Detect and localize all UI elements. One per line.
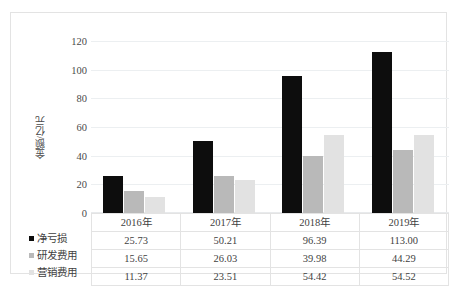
bar-group-2018年 (270, 41, 360, 213)
y-tick-120: 120 (55, 36, 87, 47)
y-tick-60: 60 (55, 122, 87, 133)
data-table: 2016年2017年2018年2019年25.7350.2196.39113.0… (91, 213, 449, 286)
legend-item-研发费用[interactable]: 研发费用 (29, 247, 91, 264)
table-cell-研发费用-2018年: 39.98 (270, 250, 359, 268)
bar-净亏损-2016年[interactable] (103, 176, 123, 213)
table-cell-净亏损-2019年: 113.00 (359, 232, 448, 250)
bar-营销费用-2017年[interactable] (235, 180, 255, 214)
table-header-row: 2016年2017年2018年2019年 (92, 214, 449, 232)
table-cell-研发费用-2016年: 15.65 (92, 250, 181, 268)
legend-item-label: 研发费用 (37, 247, 77, 264)
legend: 净亏损研发费用营销费用 (29, 230, 91, 281)
legend-swatch-icon-营销费用 (29, 270, 34, 275)
chart-frame: 金额/亿元 120 100 80 60 40 20 0 净亏损研发费用营销费用 … (10, 12, 447, 274)
legend-item-label: 净亏损 (37, 230, 67, 247)
legend-item-营销费用[interactable]: 营销费用 (29, 264, 91, 281)
bars-layer (91, 41, 449, 213)
y-tick-0: 0 (55, 208, 87, 219)
bar-研发费用-2016年[interactable] (124, 191, 144, 213)
bar-净亏损-2017年[interactable] (193, 141, 213, 213)
bar-group-2019年 (360, 41, 450, 213)
bar-净亏损-2018年[interactable] (282, 76, 302, 213)
bar-研发费用-2017年[interactable] (214, 176, 234, 213)
bar-group-2017年 (181, 41, 271, 213)
table-header-2016年: 2016年 (92, 214, 181, 232)
y-axis-title: 金额/亿元 (35, 83, 49, 193)
data-table-body: 2016年2017年2018年2019年25.7350.2196.39113.0… (92, 214, 449, 286)
plot-area (91, 41, 449, 213)
y-tick-40: 40 (55, 150, 87, 161)
bar-营销费用-2016年[interactable] (145, 197, 165, 213)
bar-研发费用-2018年[interactable] (303, 156, 323, 213)
table-cell-营销费用-2016年: 11.37 (92, 268, 181, 286)
table-row: 25.7350.2196.39113.00 (92, 232, 449, 250)
bar-营销费用-2018年[interactable] (324, 135, 344, 213)
table-header-2018年: 2018年 (270, 214, 359, 232)
legend-swatch-icon-净亏损 (29, 236, 34, 241)
bar-group-2016年 (91, 41, 181, 213)
table-cell-研发费用-2019年: 44.29 (359, 250, 448, 268)
legend-swatch-icon-研发费用 (29, 253, 34, 258)
legend-item-label: 营销费用 (37, 264, 77, 281)
table-cell-净亏损-2017年: 50.21 (181, 232, 270, 250)
legend-item-净亏损[interactable]: 净亏损 (29, 230, 91, 247)
table-cell-营销费用-2018年: 54.42 (270, 268, 359, 286)
table-cell-净亏损-2018年: 96.39 (270, 232, 359, 250)
bar-营销费用-2019年[interactable] (414, 135, 434, 213)
bar-净亏损-2019年[interactable] (372, 52, 392, 213)
table-row: 15.6526.0339.9844.29 (92, 250, 449, 268)
table-cell-营销费用-2019年: 54.52 (359, 268, 448, 286)
table-cell-营销费用-2017年: 23.51 (181, 268, 270, 286)
table-row: 11.3723.5154.4254.52 (92, 268, 449, 286)
y-tick-80: 80 (55, 93, 87, 104)
table-cell-净亏损-2016年: 25.73 (92, 232, 181, 250)
table-header-2017年: 2017年 (181, 214, 270, 232)
table-cell-研发费用-2017年: 26.03 (181, 250, 270, 268)
bar-研发费用-2019年[interactable] (393, 150, 413, 213)
y-tick-100: 100 (55, 64, 87, 75)
table-header-2019年: 2019年 (359, 214, 448, 232)
y-tick-20: 20 (55, 179, 87, 190)
